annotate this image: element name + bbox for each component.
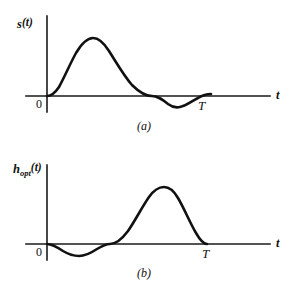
panel-b-y-axis-label-arg: (t) xyxy=(31,161,42,173)
panel-a-t-axis-label: t xyxy=(276,89,279,102)
panel-b-duration-label: T xyxy=(202,247,209,260)
panel-b-impulse-response-curve xyxy=(47,187,207,256)
panel-b-t-axis-label: t xyxy=(276,237,279,250)
panel-a-signal-curve xyxy=(47,38,211,107)
figure-root: s(t) 0 T t (a) hopt(t) 0 T t (b) xyxy=(0,0,294,289)
panel-b-caption: (b) xyxy=(137,267,151,279)
panel-b-origin-label: 0 xyxy=(36,246,42,258)
panel-b-y-axis-label-subscript: opt xyxy=(20,168,31,178)
panel-a-y-axis-label: s(t) xyxy=(17,18,33,31)
panel-b-y-axis-label: hopt(t) xyxy=(13,163,42,176)
panel-a-duration-label: T xyxy=(198,99,205,112)
panel-a-signal: s(t) 0 T t (a) xyxy=(0,0,294,145)
panel-a-caption: (a) xyxy=(137,120,151,132)
panel-a-origin-label: 0 xyxy=(36,98,42,110)
panel-b-matched-filter: hopt(t) 0 T t (b) xyxy=(0,145,294,289)
panel-a-y-axis-label-arg: (t) xyxy=(22,16,33,28)
panel-b-y-axis-label-base: h xyxy=(13,162,20,176)
